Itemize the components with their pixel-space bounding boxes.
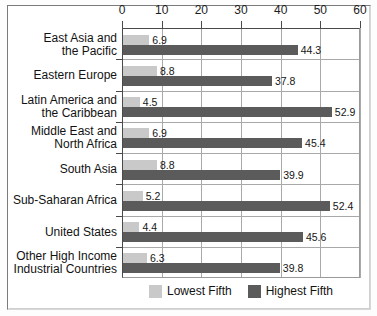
plot-area: 6.944.38.837.84.552.96.945.48.839.95.252…	[122, 28, 360, 278]
x-axis-label-10: 10	[155, 3, 168, 17]
bar	[122, 107, 332, 117]
bar	[122, 160, 157, 170]
category-tick	[116, 247, 122, 248]
bar	[122, 253, 147, 263]
bar	[122, 263, 280, 273]
bar	[122, 66, 157, 76]
chart-figure: 0102030405060 6.944.38.837.84.552.96.945…	[0, 0, 377, 316]
bar-value-label: 45.6	[306, 232, 326, 242]
bar-value-label: 4.4	[142, 222, 157, 232]
row-separator	[122, 59, 360, 60]
row-separator	[122, 91, 360, 92]
category-label: South Asia	[0, 163, 122, 176]
x-tick-0	[122, 21, 123, 28]
row-separator	[122, 247, 360, 248]
bar-value-label: 8.8	[160, 160, 175, 170]
bar-value-label: 6.9	[152, 128, 167, 138]
x-tick-10	[162, 21, 163, 28]
x-axis-label-20: 20	[195, 3, 208, 17]
category-tick	[116, 122, 122, 123]
x-tick-20	[201, 21, 202, 28]
x-tick-40	[281, 21, 282, 28]
row-separator	[122, 153, 360, 154]
bar-value-label: 4.5	[143, 97, 158, 107]
bar-value-label: 44.3	[301, 45, 321, 55]
bar	[122, 128, 149, 138]
bar-value-label: 5.2	[146, 191, 161, 201]
legend-item: Highest Fifth	[248, 284, 333, 298]
legend-item: Lowest Fifth	[149, 284, 232, 298]
legend-swatch	[248, 285, 261, 298]
bar	[122, 222, 139, 232]
category-tick	[116, 153, 122, 154]
category-label: Latin America and the Caribbean	[0, 94, 122, 120]
bar	[122, 170, 280, 180]
bar	[122, 97, 140, 107]
bar-value-label: 45.4	[305, 138, 325, 148]
row-separator	[122, 184, 360, 185]
bar-value-label: 6.3	[150, 253, 165, 263]
category-label: United States	[0, 226, 122, 239]
x-axis-label-40: 40	[274, 3, 287, 17]
chart-legend: Lowest FifthHighest Fifth	[122, 284, 360, 298]
legend-swatch	[149, 285, 162, 298]
category-label: East Asia and the Pacific	[0, 32, 122, 58]
category-label: Sub-Saharan Africa	[0, 194, 122, 207]
bar	[122, 76, 272, 86]
legend-label: Lowest Fifth	[167, 284, 232, 298]
bar	[122, 232, 303, 242]
bar	[122, 138, 302, 148]
row-separator	[122, 216, 360, 217]
x-tick-50	[320, 21, 321, 28]
category-tick	[116, 91, 122, 92]
bar-value-label: 8.8	[160, 66, 175, 76]
x-axis-label-50: 50	[314, 3, 327, 17]
x-axis-label-60: 60	[353, 3, 366, 17]
bar	[122, 191, 143, 201]
category-label: Other High Income Industrial Countries	[0, 250, 122, 276]
category-label: Eastern Europe	[0, 69, 122, 82]
category-label: Middle East and North Africa	[0, 125, 122, 151]
category-tick	[116, 184, 122, 185]
bar	[122, 201, 330, 211]
row-separator	[122, 122, 360, 123]
bar-value-label: 39.8	[283, 263, 303, 273]
bar-value-label: 52.9	[335, 107, 355, 117]
x-axis-label-0: 0	[119, 3, 126, 17]
x-tick-60	[360, 21, 361, 28]
bar-value-label: 6.9	[152, 35, 167, 45]
x-axis-label-30: 30	[234, 3, 247, 17]
legend-label: Highest Fifth	[266, 284, 333, 298]
bar	[122, 35, 149, 45]
bar-value-label: 39.9	[283, 170, 303, 180]
bar-value-label: 52.4	[333, 201, 353, 211]
x-tick-30	[241, 21, 242, 28]
gridline-60	[360, 28, 361, 278]
bar	[122, 45, 298, 55]
category-tick	[116, 59, 122, 60]
category-tick	[116, 216, 122, 217]
bar-value-label: 37.8	[275, 76, 295, 86]
